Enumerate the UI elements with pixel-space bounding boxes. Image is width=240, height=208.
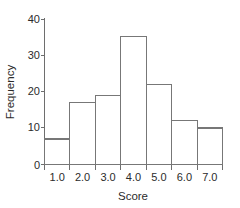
x-tick-label-7: 7.0 (202, 171, 217, 183)
y-tick-label-40: 40 (28, 13, 40, 25)
y-axis-title: Frequency (4, 65, 16, 120)
x-axis-title: Score (118, 190, 148, 202)
bar-score-2 (70, 102, 95, 164)
bar-score-7 (197, 128, 222, 165)
x-tick-label-4: 4.0 (126, 171, 141, 183)
x-tick-label-1: 1.0 (50, 171, 65, 183)
x-tick-label-2: 2.0 (75, 171, 90, 183)
bar-score-1 (45, 139, 70, 165)
y-tick-label-20: 20 (28, 85, 40, 97)
bar-score-6 (172, 121, 197, 165)
histogram-chart: Frequency 40 30 20 10 0 1.0 (0, 0, 240, 208)
bar-score-3 (95, 95, 120, 164)
x-tick-label-6: 6.0 (177, 171, 192, 183)
x-tick-label-5: 5.0 (151, 171, 166, 183)
y-tick-label-0: 0 (34, 159, 40, 171)
x-tick-label-3: 3.0 (100, 171, 115, 183)
bar-score-4 (121, 37, 146, 165)
bar-score-5 (146, 84, 171, 164)
y-tick-label-10: 10 (28, 121, 40, 133)
y-tick-label-30: 30 (28, 49, 40, 61)
chart-canvas: Frequency 40 30 20 10 0 1.0 (0, 0, 240, 208)
